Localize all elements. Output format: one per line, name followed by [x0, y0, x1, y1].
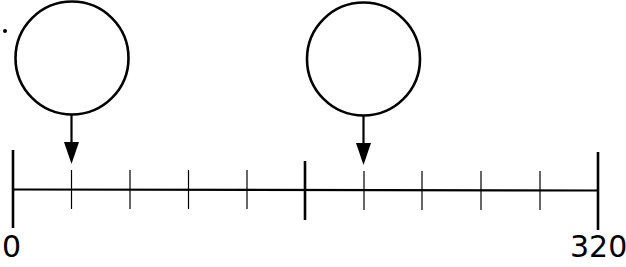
answer-circle-1[interactable]	[16, 2, 129, 115]
answer-circle-2[interactable]	[307, 3, 420, 116]
number-line-diagram: 0 320	[0, 0, 626, 267]
marker-circle-2	[307, 3, 420, 166]
max-label: 320	[570, 232, 626, 262]
arrow-down-icon	[356, 143, 371, 165]
arrow-down-icon	[64, 142, 79, 164]
marker-circle-1	[16, 2, 129, 165]
stray-dot	[3, 29, 7, 33]
min-label: 0	[2, 232, 21, 262]
